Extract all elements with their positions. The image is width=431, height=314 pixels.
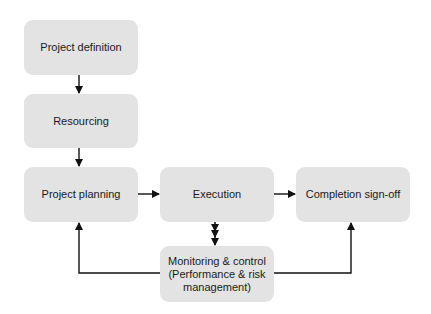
node-label-line-1: Monitoring & control [168,255,266,268]
node-label: Execution [193,188,241,201]
node-label: Completion sign-off [306,188,401,201]
node-execution: Execution [160,167,274,222]
node-label: Project planning [42,188,121,201]
node-label: Project definition [40,41,121,54]
node-label: Resourcing [53,115,109,128]
node-label-line-2: (Performance & risk [168,268,265,281]
node-resourcing: Resourcing [24,94,138,148]
node-completion-sign-off: Completion sign-off [296,167,410,222]
arrow-monitoring-to-planning [79,223,160,273]
node-monitoring-control: Monitoring & control (Performance & risk… [160,246,274,302]
node-project-planning: Project planning [24,167,138,222]
node-project-definition: Project definition [24,20,138,75]
node-label-line-3: management) [183,281,251,294]
arrow-monitoring-to-completion [274,223,351,273]
